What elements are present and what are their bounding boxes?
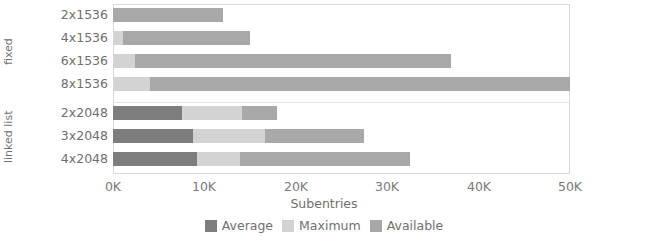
legend-item-maximum: Maximum <box>282 218 361 233</box>
bar-segment-average <box>113 152 197 166</box>
stacked-bar-chart: fixed linked list 2x1536 4x1536 6x1536 8… <box>0 0 648 248</box>
legend-swatch-maximum-icon <box>282 220 294 232</box>
x-tick-3: 30K <box>367 179 407 194</box>
legend-label-available: Available <box>387 218 444 233</box>
legend-label-maximum: Maximum <box>299 218 361 233</box>
legend-item-available: Available <box>370 218 444 233</box>
bar-segment-available <box>265 129 365 143</box>
bar-segment-available <box>123 31 250 45</box>
bar-segment-maximum <box>113 31 123 45</box>
x-tick-2: 20K <box>276 179 316 194</box>
bar-segment-available <box>242 106 277 120</box>
legend-item-average: Average <box>205 218 273 233</box>
legend-swatch-available-icon <box>370 220 382 232</box>
bar-row <box>113 54 570 68</box>
bar-segment-maximum <box>193 129 265 143</box>
bar-segment-available <box>113 8 223 22</box>
bar-row <box>113 77 570 91</box>
x-tick-4: 40K <box>459 179 499 194</box>
category-label-3: 8x1536 <box>18 77 108 91</box>
legend: Average Maximum Available <box>0 218 648 233</box>
legend-label-average: Average <box>222 218 273 233</box>
bar-row <box>113 152 570 166</box>
bar-row <box>113 31 570 45</box>
bar-row <box>113 129 570 143</box>
bar-row <box>113 106 570 120</box>
bar-segment-maximum <box>197 152 240 166</box>
bar-segment-maximum <box>113 54 135 68</box>
x-tick-1: 10K <box>184 179 224 194</box>
bar-segment-available <box>135 54 451 68</box>
category-label-5: 3x2048 <box>18 129 108 143</box>
bar-segment-average <box>113 106 182 120</box>
category-label-6: 4x2048 <box>18 152 108 166</box>
x-tick-0: 0K <box>93 179 133 194</box>
bar-segment-maximum <box>182 106 242 120</box>
category-label-2: 6x1536 <box>18 54 108 68</box>
bar-segment-available <box>240 152 410 166</box>
legend-swatch-average-icon <box>205 220 217 232</box>
x-tick-5: 50K <box>550 179 590 194</box>
category-label-1: 4x1536 <box>18 31 108 45</box>
bar-row <box>113 8 570 22</box>
bar-segment-available <box>150 77 570 91</box>
category-label-0: 2x1536 <box>18 8 108 22</box>
bar-segment-maximum <box>113 77 150 91</box>
x-axis-label: Subentries <box>0 196 648 211</box>
category-label-4: 2x2048 <box>18 106 108 120</box>
bar-segment-average <box>113 129 193 143</box>
group-separator-line <box>114 102 569 103</box>
